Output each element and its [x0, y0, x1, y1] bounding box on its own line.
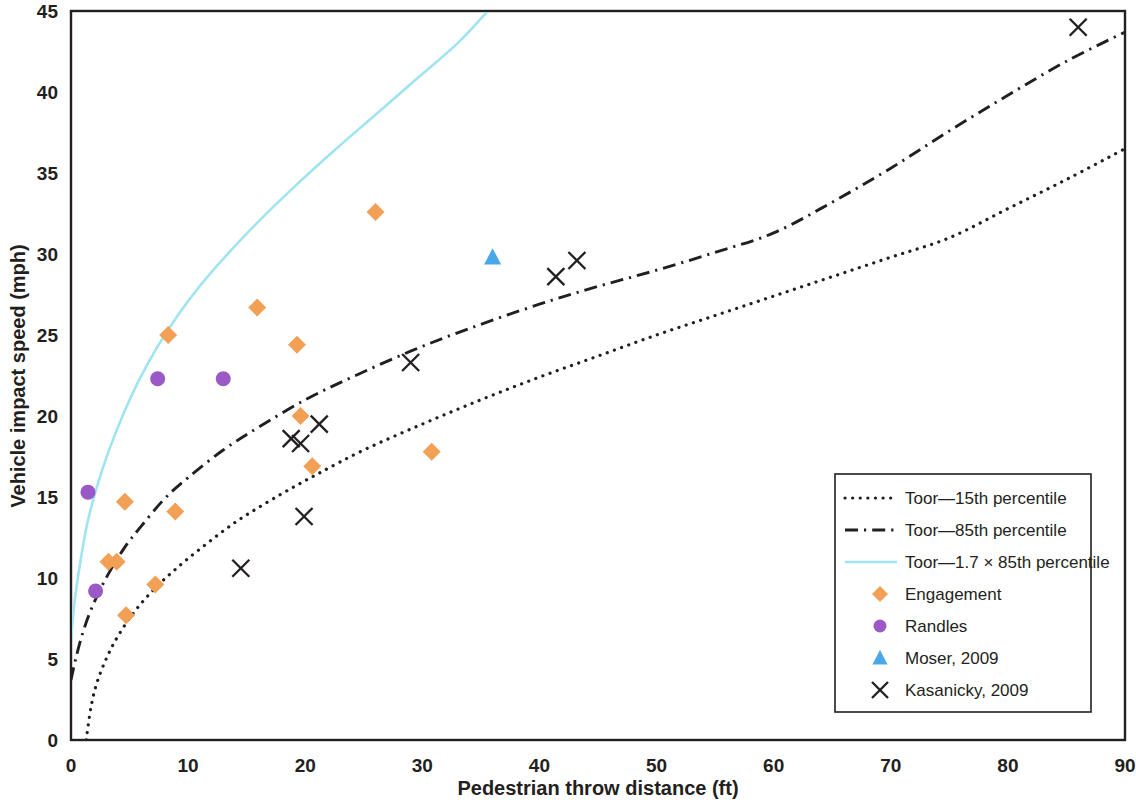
x-tick-label: 30: [412, 755, 433, 776]
engagement-marker: [366, 203, 384, 221]
kasanicky-marker: [568, 252, 585, 269]
y-axis-tick-labels: 051015202530354045: [37, 1, 59, 751]
legend-label: Engagement: [905, 585, 1002, 604]
x-axis-title: Pedestrian throw distance (ft): [457, 777, 738, 799]
y-tick-label: 20: [37, 406, 58, 427]
randles-marker: [150, 371, 165, 386]
engagement-marker: [166, 503, 184, 521]
legend-label: Toor—15th percentile: [905, 489, 1067, 508]
randles-marker: [80, 485, 95, 500]
scatter-chart: 051015202530354045 0102030405060708090 P…: [0, 0, 1136, 806]
chart-legend: Toor—15th percentileToor—85th percentile…: [835, 474, 1110, 712]
chart-figure: 051015202530354045 0102030405060708090 P…: [0, 0, 1136, 806]
kasanicky-marker: [1070, 19, 1087, 36]
kasanicky-marker: [296, 508, 313, 525]
x-tick-label: 10: [178, 755, 199, 776]
y-tick-label: 40: [37, 82, 58, 103]
legend-label: Moser, 2009: [905, 649, 999, 668]
x-tick-label: 70: [880, 755, 901, 776]
y-tick-label: 0: [47, 730, 58, 751]
x-tick-label: 40: [529, 755, 550, 776]
engagement-marker: [116, 493, 134, 511]
moser-marker: [484, 248, 501, 264]
x-tick-label: 20: [295, 755, 316, 776]
y-tick-label: 30: [37, 244, 58, 265]
y-tick-label: 45: [37, 1, 59, 22]
y-axis-title: Vehicle impact speed (mph): [7, 244, 29, 507]
kasanicky-marker: [311, 416, 328, 433]
legend-label: Toor—85th percentile: [905, 521, 1067, 540]
y-tick-label: 25: [37, 325, 59, 346]
x-axis-tick-labels: 0102030405060708090: [66, 755, 1136, 776]
legend-label: Toor—1.7 × 85th percentile: [905, 553, 1110, 572]
x-tick-label: 0: [66, 755, 77, 776]
purple-circle-swatch-icon: [874, 620, 887, 633]
x-tick-label: 60: [763, 755, 784, 776]
engagement-marker: [117, 606, 135, 624]
y-tick-label: 5: [47, 649, 58, 670]
legend-label: Kasanicky, 2009: [905, 681, 1028, 700]
kasanicky-marker: [402, 354, 419, 371]
y-tick-label: 15: [37, 487, 59, 508]
randles-marker: [88, 583, 103, 598]
engagement-marker: [146, 575, 164, 593]
engagement-marker: [423, 443, 441, 461]
x-tick-label: 80: [997, 755, 1018, 776]
x-tick-label: 50: [646, 755, 667, 776]
engagement-marker: [288, 336, 306, 354]
engagement-marker: [248, 298, 266, 316]
trend-line: [71, 11, 488, 640]
y-tick-label: 35: [37, 163, 59, 184]
engagement-marker: [292, 407, 310, 425]
legend-label: Randles: [905, 617, 967, 636]
y-tick-label: 10: [37, 568, 58, 589]
x-tick-label: 90: [1114, 755, 1135, 776]
kasanicky-marker: [547, 268, 564, 285]
kasanicky-marker: [232, 560, 249, 577]
randles-marker: [216, 371, 231, 386]
